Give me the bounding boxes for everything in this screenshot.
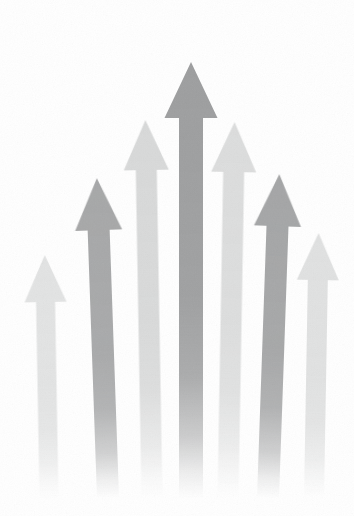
illustration-canvas: Seven Upward Arrows Growth Illustration — [0, 0, 354, 516]
paper-grain-texture — [0, 0, 354, 516]
arrows-illustration — [0, 0, 354, 516]
